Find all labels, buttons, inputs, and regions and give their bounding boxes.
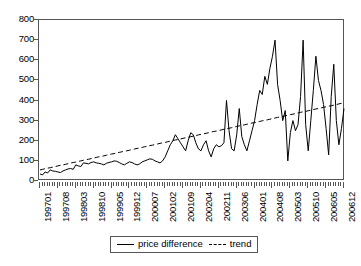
x-tick-mark <box>254 182 255 188</box>
x-axis: 1997011997081998031998101999051999122000… <box>38 182 344 238</box>
x-tick-mark <box>213 182 214 186</box>
x-tick-mark <box>167 182 168 186</box>
x-tick-mark <box>282 182 283 186</box>
x-tick-mark <box>172 182 173 186</box>
x-tick-label: 200306 <box>240 192 250 222</box>
x-tick-mark <box>307 182 308 188</box>
x-tick-mark <box>343 182 344 188</box>
x-tick-mark <box>284 182 285 186</box>
x-tick-mark <box>289 182 290 188</box>
x-tick-mark <box>169 182 170 186</box>
x-tick-mark <box>197 182 198 186</box>
x-tick-mark <box>330 182 331 186</box>
x-tick-mark <box>108 182 109 186</box>
x-tick-mark <box>67 182 68 186</box>
x-tick-mark <box>297 182 298 186</box>
chart-legend: price difference trend <box>110 236 258 253</box>
x-tick-mark <box>151 182 152 186</box>
x-tick-mark <box>62 182 63 186</box>
x-tick-mark <box>202 182 203 186</box>
x-tick-mark <box>195 182 196 186</box>
x-tick-mark <box>271 182 272 188</box>
x-tick-mark <box>317 182 318 186</box>
x-tick-label: 200401 <box>258 192 268 222</box>
x-tick-mark <box>100 182 101 186</box>
x-tick-mark <box>187 182 188 186</box>
x-tick-mark <box>98 182 99 186</box>
x-tick-mark <box>185 182 186 186</box>
x-tick-mark <box>323 182 324 186</box>
x-tick-mark <box>42 182 43 186</box>
x-tick-mark <box>54 182 55 186</box>
x-tick-mark <box>49 182 50 186</box>
x-tick-label: 200211 <box>222 192 232 221</box>
x-tick-mark <box>105 182 106 186</box>
x-tick-mark <box>208 182 209 186</box>
y-tick-label: 800 <box>2 14 34 24</box>
x-tick-mark <box>269 182 270 186</box>
y-tick-label: 200 <box>2 135 34 145</box>
x-tick-mark <box>264 182 265 186</box>
y-tick-label: 100 <box>2 155 34 165</box>
x-tick-mark <box>312 182 313 186</box>
x-tick-label: 200503 <box>293 192 303 222</box>
legend-label-trend: trend <box>230 239 252 249</box>
x-tick-mark <box>95 182 96 186</box>
x-tick-mark <box>162 182 163 186</box>
x-tick-label: 199803 <box>79 192 89 222</box>
y-tick-label: 300 <box>2 115 34 125</box>
x-tick-mark <box>274 182 275 186</box>
x-tick-mark <box>182 182 183 188</box>
x-tick-label: 200510 <box>311 192 321 222</box>
x-tick-mark <box>47 182 48 186</box>
chart-container: 0100200300400500600700800 19970119970819… <box>0 0 361 266</box>
x-tick-mark <box>134 182 135 186</box>
x-tick-label: 199810 <box>97 192 107 222</box>
x-tick-mark <box>310 182 311 186</box>
x-tick-label: 199912 <box>132 192 142 222</box>
x-tick-mark <box>88 182 89 186</box>
y-tick-mark <box>34 180 38 181</box>
x-tick-mark <box>144 182 145 186</box>
legend-item-price-difference: price difference <box>117 239 203 249</box>
line-solid-icon <box>117 241 134 248</box>
x-tick-mark <box>59 182 60 186</box>
x-tick-mark <box>218 182 219 188</box>
y-tick-label: 400 <box>2 95 34 105</box>
x-tick-mark <box>315 182 316 186</box>
x-tick-mark <box>93 182 94 188</box>
x-tick-mark <box>246 182 247 186</box>
x-tick-mark <box>164 182 165 188</box>
y-axis: 0100200300400500600700800 <box>0 0 34 200</box>
x-tick-mark <box>279 182 280 186</box>
x-tick-mark <box>113 182 114 186</box>
x-tick-mark <box>200 182 201 188</box>
x-tick-mark <box>256 182 257 186</box>
x-tick-mark <box>277 182 278 186</box>
x-tick-mark <box>65 182 66 186</box>
x-tick-mark <box>72 182 73 186</box>
x-tick-mark <box>335 182 336 186</box>
x-tick-mark <box>338 182 339 186</box>
x-tick-mark <box>223 182 224 186</box>
x-tick-mark <box>259 182 260 186</box>
x-tick-mark <box>177 182 178 186</box>
x-tick-mark <box>126 182 127 186</box>
x-tick-mark <box>231 182 232 186</box>
y-tick-label: 0 <box>2 175 34 185</box>
x-tick-mark <box>205 182 206 186</box>
series-price-difference <box>40 40 344 175</box>
x-tick-mark <box>90 182 91 186</box>
x-tick-mark <box>225 182 226 186</box>
x-tick-mark <box>111 182 112 188</box>
line-dashed-icon <box>209 241 226 248</box>
y-tick-label: 600 <box>2 54 34 64</box>
legend-label-price-difference: price difference <box>138 239 203 249</box>
x-tick-mark <box>103 182 104 186</box>
x-tick-mark <box>77 182 78 186</box>
x-tick-mark <box>192 182 193 186</box>
x-tick-mark <box>241 182 242 186</box>
x-tick-mark <box>266 182 267 186</box>
x-tick-label: 200007 <box>150 192 160 222</box>
x-tick-mark <box>52 182 53 186</box>
